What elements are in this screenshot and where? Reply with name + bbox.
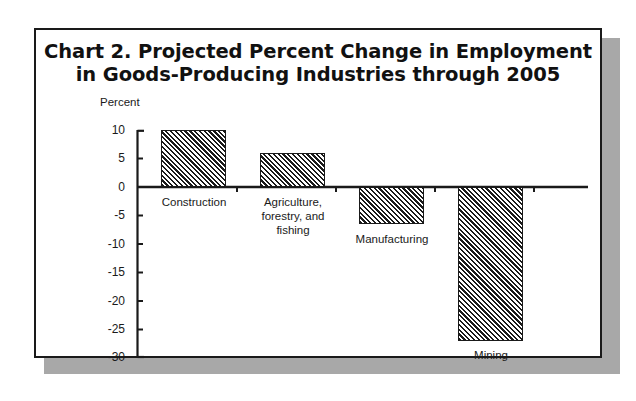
- plot-area: Percent 10 5 0 -5 -10: [36, 30, 604, 360]
- category-label-agriculture: Agriculture, forestry, and fishing: [242, 195, 344, 237]
- y-tick-label-neg30: -30: [91, 350, 125, 364]
- y-tick-label-neg15: -15: [91, 265, 125, 279]
- category-label-mining: Mining: [445, 348, 537, 362]
- y-tick-label-neg5: -5: [91, 208, 125, 222]
- category-label-construction: Construction: [149, 195, 239, 209]
- chart-panel: Chart 2. Projected Percent Change in Emp…: [34, 28, 602, 358]
- y-tick-label-neg10: -10: [91, 237, 125, 251]
- bar-agriculture-forestry-fishing: [260, 153, 325, 187]
- category-label-manufacturing: Manufacturing: [342, 232, 442, 246]
- bar-mining: [458, 187, 523, 341]
- bar-manufacturing: [359, 187, 424, 224]
- y-tick-label-neg25: -25: [91, 322, 125, 336]
- y-tick-label-neg20: -20: [91, 294, 125, 308]
- y-tick-label-0: 0: [91, 180, 125, 194]
- bar-construction: [161, 130, 226, 187]
- y-tick-label-5: 5: [91, 151, 125, 165]
- y-tick-label-10: 10: [91, 123, 125, 137]
